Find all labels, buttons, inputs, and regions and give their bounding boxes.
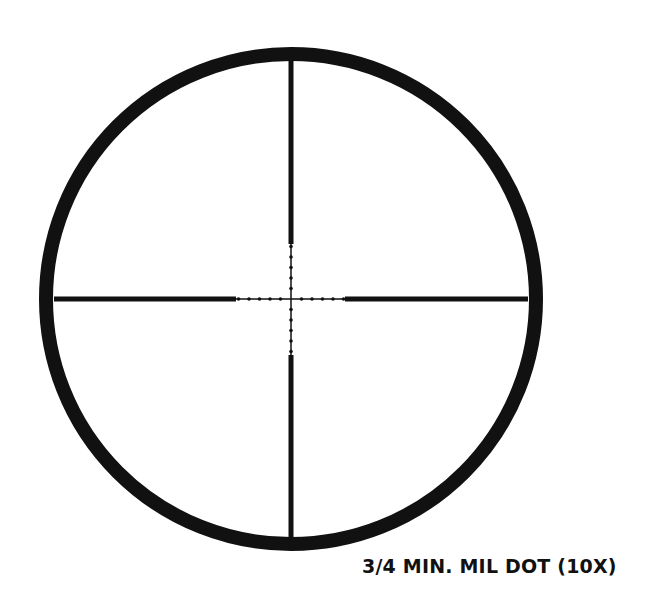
mil-dot bbox=[268, 297, 272, 301]
mil-dot bbox=[289, 255, 293, 259]
mil-dot bbox=[289, 276, 293, 280]
mil-dot bbox=[289, 350, 293, 354]
mil-dot bbox=[289, 245, 293, 249]
mil-dot bbox=[289, 266, 293, 270]
mil-dot bbox=[331, 297, 335, 301]
reticle-caption: 3/4 MIN. MIL DOT (10X) bbox=[362, 555, 617, 577]
mil-dot bbox=[289, 318, 293, 322]
mil-dot bbox=[321, 297, 325, 301]
mil-dot bbox=[342, 297, 346, 301]
mil-dot bbox=[237, 297, 241, 301]
mil-dot bbox=[289, 329, 293, 333]
crosshair bbox=[54, 58, 528, 540]
mil-dot bbox=[310, 297, 314, 301]
mil-dot bbox=[289, 308, 293, 312]
reticle-diagram bbox=[0, 0, 662, 608]
mil-dot bbox=[289, 339, 293, 343]
mil-dot bbox=[258, 297, 262, 301]
mil-dot bbox=[300, 297, 304, 301]
mil-dot bbox=[279, 297, 283, 301]
mil-dot bbox=[289, 287, 293, 291]
mil-dot bbox=[247, 297, 251, 301]
